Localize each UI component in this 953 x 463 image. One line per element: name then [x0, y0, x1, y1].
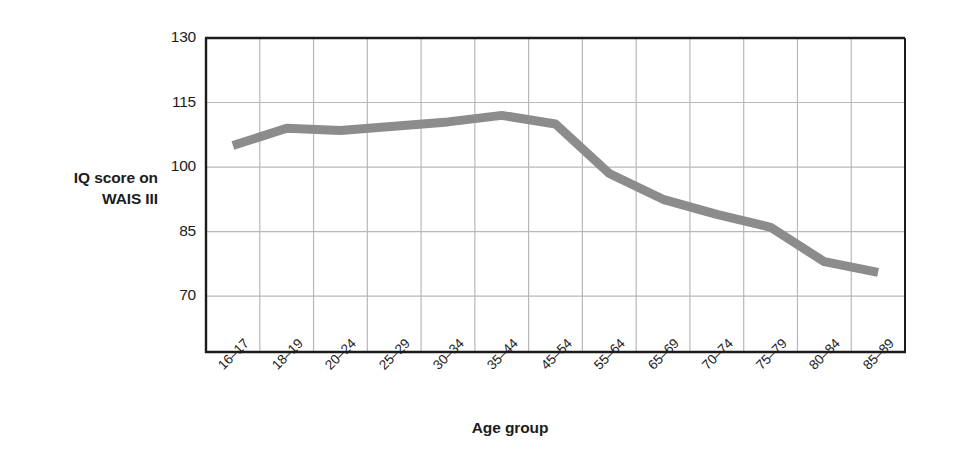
data-series-group [233, 115, 878, 272]
y-axis-tick-label: 130 [152, 28, 196, 46]
data-line-iq-score [233, 115, 878, 272]
y-axis-tick-label: 85 [152, 222, 196, 240]
plot-frame [205, 38, 906, 353]
y-axis-tick-label: 115 [152, 93, 196, 111]
vertical-grid-lines [260, 38, 851, 352]
y-axis-tick-label: 100 [152, 157, 196, 175]
x-axis-title: Age group [380, 419, 640, 437]
chart-container: IQ score on WAIS III 7085100115130 16–17… [0, 0, 953, 463]
chart-plot-area [0, 0, 953, 463]
y-axis-tick-label: 70 [152, 286, 196, 304]
